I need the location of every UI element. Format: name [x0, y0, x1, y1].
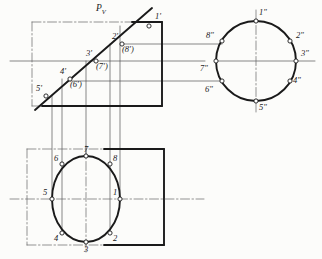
point-marker-top-7: [84, 154, 88, 158]
point-marker-side-6pp: [220, 79, 224, 83]
point-label-side-5pp: 5": [259, 103, 267, 112]
point-marker-side-3pp: [294, 59, 298, 63]
drawing-vector-layer: [0, 0, 322, 259]
point-marker-top-6: [60, 162, 64, 166]
point-label-front-3p: 3': [86, 49, 92, 58]
point-label-side-7pp: 7": [200, 64, 208, 73]
point-label-side-3pp: 3": [301, 49, 309, 58]
engineering-drawing-canvas: PV 1'2'(8')3'(7')4'(6')5'1"2"3"4"5"6"7"8…: [0, 0, 322, 259]
point-label-front-7p: (7'): [96, 62, 108, 71]
point-label-top-6: 6: [54, 154, 58, 163]
point-marker-top-1: [118, 197, 122, 201]
point-marker-side-2pp: [288, 39, 292, 43]
point-label-side-1pp: 1": [259, 8, 267, 17]
point-label-top-2: 2: [113, 234, 117, 243]
point-marker-side-4pp: [288, 79, 292, 83]
point-label-side-4pp: 4": [293, 76, 301, 85]
point-label-side-6pp: 6": [205, 85, 213, 94]
point-label-front-4p: 4': [60, 67, 66, 76]
point-marker-top-4: [60, 231, 64, 235]
point-marker-top-2: [108, 231, 112, 235]
point-label-front-6p: (6'): [70, 80, 82, 89]
point-label-side-8pp: 8": [206, 31, 214, 40]
point-label-side-2pp: 2": [296, 31, 304, 40]
point-marker-side-7pp: [214, 59, 218, 63]
point-marker-front-1p: [147, 24, 151, 28]
point-label-front-2p: 2': [112, 32, 118, 41]
cutting-plane-label: PV: [96, 4, 106, 15]
point-label-top-4: 4: [54, 234, 58, 243]
point-label-front-8p: (8'): [122, 45, 134, 54]
point-marker-top-8: [108, 162, 112, 166]
point-marker-side-8pp: [220, 39, 224, 43]
point-label-top-8: 8: [113, 154, 117, 163]
point-marker-side-1pp: [254, 19, 258, 23]
point-label-front-1p: 1': [155, 12, 161, 21]
cutting-plane-trace: [35, 8, 152, 110]
cutting-plane-subscript: V: [102, 8, 106, 15]
point-label-front-5p: 5': [36, 84, 42, 93]
point-marker-front-5p: [44, 94, 48, 98]
point-label-top-1: 1: [113, 188, 117, 197]
point-label-top-3: 3: [84, 245, 88, 254]
point-label-top-5: 5: [43, 188, 47, 197]
point-marker-top-5: [50, 197, 54, 201]
point-label-top-7: 7: [84, 145, 88, 154]
point-marker-side-5pp: [254, 99, 258, 103]
